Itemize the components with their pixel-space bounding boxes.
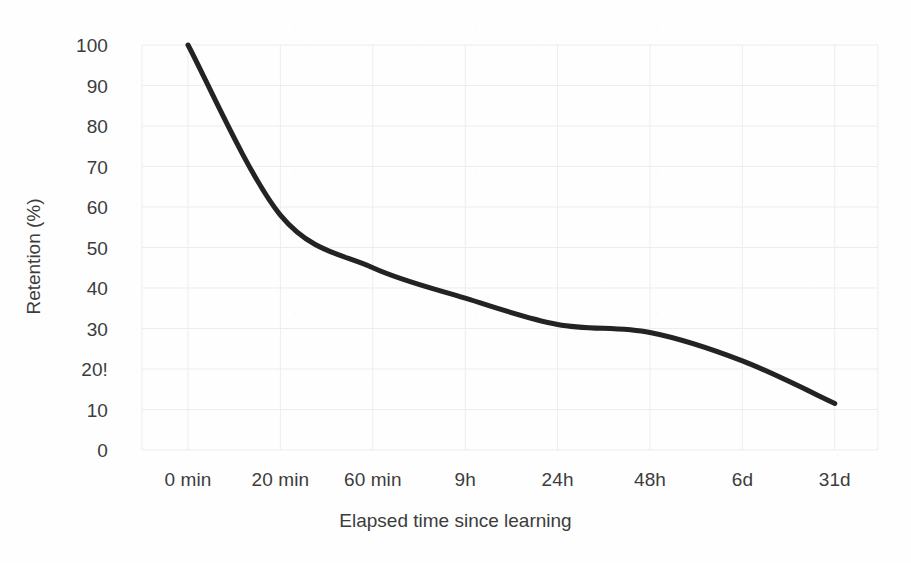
retention-curve xyxy=(188,45,835,403)
y-axis-tick-label: 90 xyxy=(48,77,108,96)
forgetting-curve-chart: 01020!30405060708090100 0 min20 min60 mi… xyxy=(0,0,911,563)
y-axis-tick-label: 60 xyxy=(48,198,108,217)
y-axis-tick-label: 50 xyxy=(48,239,108,258)
y-axis-title: Retention (%) xyxy=(24,157,43,357)
x-axis-title: Elapsed time since learning xyxy=(0,511,911,530)
y-axis-tick-label: 0 xyxy=(48,441,108,460)
y-axis-tick-label: 20! xyxy=(48,360,108,379)
horizontal-gridlines xyxy=(142,45,878,450)
y-axis-tick-label: 30 xyxy=(48,320,108,339)
y-axis-tick-label: 70 xyxy=(48,158,108,177)
y-axis-tick-label: 100 xyxy=(48,36,108,55)
y-axis-tick-label: 40 xyxy=(48,279,108,298)
y-axis-tick-label: 10 xyxy=(48,401,108,420)
y-axis-tick-label: 80 xyxy=(48,117,108,136)
x-axis-tick-label: 31d xyxy=(780,470,890,489)
